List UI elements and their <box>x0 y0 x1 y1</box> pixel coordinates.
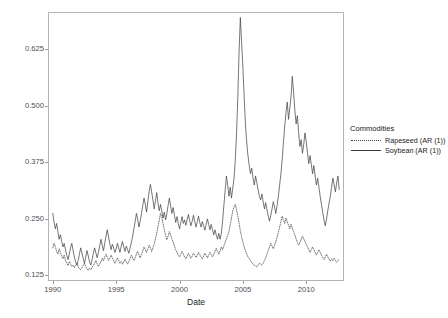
legend-item[interactable]: Rapeseed (AR (1)) <box>350 136 448 145</box>
series-line-rapeseed <box>53 204 339 270</box>
x-tick-label: 2005 <box>223 285 263 294</box>
x-tick-label: 2000 <box>160 285 200 294</box>
y-tick-label: 0.500 <box>14 102 44 110</box>
legend-title: Commodities <box>350 124 448 133</box>
legend-item-label: Rapeseed (AR (1)) <box>385 136 445 145</box>
series-plot-area <box>49 13 343 280</box>
y-axis-tick-labels: 0.1250.2500.3750.5000.625 <box>8 0 44 318</box>
x-tick-mark <box>306 281 307 284</box>
x-tick-label: 1990 <box>33 285 73 294</box>
legend-item-label: Soybean (AR (1)) <box>385 146 441 155</box>
legend-items: Rapeseed (AR (1))Soybean (AR (1)) <box>350 136 448 155</box>
legend-item[interactable]: Soybean (AR (1)) <box>350 146 448 155</box>
y-tick-label: 0.250 <box>14 215 44 223</box>
x-axis-tick-labels: 19901995200020052010 <box>0 285 448 297</box>
y-tick-label: 0.375 <box>14 158 44 166</box>
y-tick-label: 0.625 <box>14 45 44 53</box>
x-tick-label: 2010 <box>286 285 326 294</box>
legend-key-icon <box>350 136 382 145</box>
x-tick-label: 1995 <box>96 285 136 294</box>
y-tick-label: 0.125 <box>14 271 44 279</box>
x-tick-mark <box>53 281 54 284</box>
x-tick-mark <box>180 281 181 284</box>
legend-line-swatch <box>351 140 381 141</box>
plot-panel <box>48 12 344 281</box>
x-tick-mark <box>116 281 117 284</box>
legend: Commodities Rapeseed (AR (1))Soybean (AR… <box>344 124 448 156</box>
legend-key-icon <box>350 146 382 155</box>
legend-line-swatch <box>351 150 381 151</box>
x-axis-title: Date <box>48 297 344 307</box>
series-line-soybean <box>53 18 339 266</box>
x-tick-mark <box>243 281 244 284</box>
chart-figure: Annualized volatility 0.1250.2500.3750.5… <box>0 0 448 318</box>
